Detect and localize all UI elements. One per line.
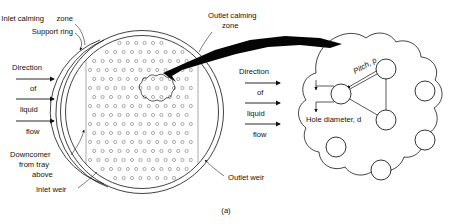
- tray-assembly: [50, 28, 223, 196]
- tray-hole: [118, 113, 121, 116]
- tray-hole: [139, 176, 142, 179]
- left-annotation-group: Inlet calming zone Support ring Directio…: [1, 14, 97, 194]
- tray-hole: [189, 86, 192, 89]
- tray-hole: [189, 104, 192, 107]
- tray-hole: [130, 104, 133, 107]
- tray-hole: [130, 50, 133, 53]
- tray-hole: [147, 86, 150, 89]
- column-shell-circle: [61, 31, 224, 194]
- tray-hole: [109, 95, 112, 98]
- tray-hole: [181, 86, 184, 89]
- tray-hole: [168, 167, 171, 170]
- tray-hole: [109, 167, 112, 170]
- tray-hole: [156, 158, 159, 161]
- support-ring-leader: [75, 33, 82, 50]
- tray-hole: [185, 167, 188, 170]
- outlet-weir-leader: [205, 160, 224, 176]
- magnified-blob-outline: [299, 33, 443, 175]
- magnified-hole: [415, 130, 435, 150]
- tray-hole: [118, 167, 121, 170]
- downcomer-arc: [56, 40, 108, 187]
- tray-hole: [151, 131, 154, 134]
- tray-hole: [93, 95, 96, 98]
- tray-hole: [114, 122, 117, 125]
- tray-hole: [177, 59, 180, 62]
- tray-hole: [135, 59, 138, 62]
- flow-right-group: Direction of liquid flow: [239, 67, 280, 139]
- tray-hole: [147, 158, 150, 161]
- tray-hole: [97, 104, 100, 107]
- tray-hole: [164, 104, 167, 107]
- tray-hole: [160, 95, 163, 98]
- tray-hole: [147, 176, 150, 179]
- tray-hole: [151, 95, 154, 98]
- tray-hole: [143, 41, 146, 44]
- tray-hole: [118, 149, 121, 152]
- figure-canvas: Inlet calming zone Support ring Directio…: [0, 0, 452, 224]
- tray-hole: [156, 176, 159, 179]
- tray-hole: [135, 131, 138, 134]
- tray-hole: [135, 113, 138, 116]
- tray-hole: [181, 104, 184, 107]
- tray-hole: [143, 59, 146, 62]
- tray-hole: [97, 140, 100, 143]
- tray-hole: [130, 140, 133, 143]
- support-ring-label: Support ring: [32, 27, 73, 36]
- tray-hole: [130, 122, 133, 125]
- tray-hole: [164, 86, 167, 89]
- tray-hole: [118, 77, 121, 80]
- magnified-hole: [326, 137, 346, 157]
- tray-hole: [177, 95, 180, 98]
- tray-hole: [122, 176, 125, 179]
- tray-hole: [160, 167, 163, 170]
- tray-hole: [105, 50, 108, 53]
- tray-hole: [126, 167, 129, 170]
- tray-hole: [139, 68, 142, 71]
- tray-hole: [101, 59, 104, 62]
- tray-hole: [122, 68, 125, 71]
- sieve-tray-diagram: Inlet calming zone Support ring Directio…: [0, 0, 452, 224]
- tray-hole: [147, 140, 150, 143]
- tray-hole: [105, 68, 108, 71]
- tray-hole: [168, 131, 171, 134]
- tray-hole: [105, 158, 108, 161]
- outlet-calming-zone-leader: [199, 32, 212, 52]
- tray-hole: [172, 176, 175, 179]
- tray-hole: [97, 86, 100, 89]
- tray-hole: [160, 59, 163, 62]
- tray-hole: [139, 122, 142, 125]
- tray-hole: [101, 131, 104, 134]
- flow-left-line4: flow: [26, 127, 40, 136]
- tray-hole: [105, 86, 108, 89]
- tray-hole: [126, 41, 129, 44]
- tray-hole: [101, 95, 104, 98]
- perforation-field: [88, 41, 192, 179]
- tray-hole: [156, 140, 159, 143]
- tray-hole: [88, 104, 91, 107]
- tray-hole: [105, 140, 108, 143]
- flow-right-line4: flow: [253, 130, 267, 139]
- tray-hole: [114, 158, 117, 161]
- tray-hole: [93, 149, 96, 152]
- tray-hole: [130, 176, 133, 179]
- outlet-calming-zone-label-2: zone: [222, 21, 238, 30]
- tray-hole: [164, 50, 167, 53]
- tray-hole: [151, 59, 154, 62]
- tray-hole: [101, 167, 104, 170]
- tray-hole: [118, 41, 121, 44]
- tray-hole: [160, 149, 163, 152]
- tray-hole: [172, 122, 175, 125]
- tray-hole: [105, 104, 108, 107]
- magnified-hole: [376, 110, 396, 130]
- tray-hole: [126, 131, 129, 134]
- tray-hole: [168, 113, 171, 116]
- tray-hole: [114, 50, 117, 53]
- tray-hole: [139, 104, 142, 107]
- tray-hole: [88, 158, 91, 161]
- tray-hole: [156, 104, 159, 107]
- magnified-hole: [331, 84, 351, 104]
- downcomer-label-2: from tray: [19, 160, 49, 169]
- tray-hole: [109, 113, 112, 116]
- tray-hole: [164, 158, 167, 161]
- tray-hole: [164, 176, 167, 179]
